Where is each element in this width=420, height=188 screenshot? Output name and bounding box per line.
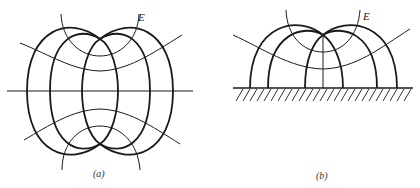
- ground-hatching: [236, 89, 411, 101]
- equipotential-top-small: [61, 14, 139, 56]
- field-line-outer-left-b: [250, 25, 323, 88]
- figure-a: E (a): [7, 11, 193, 180]
- field-line-inner-right-b: [323, 35, 343, 88]
- diagram-canvas: E (a): [0, 0, 420, 188]
- field-label-b: E: [362, 10, 370, 22]
- field-line-outer-right-b: [323, 25, 397, 88]
- field-label-a: E: [137, 11, 145, 23]
- figure-b: E (b): [233, 10, 413, 182]
- field-line-inner-left-b: [305, 35, 323, 88]
- equipotential-bottom-small: [62, 126, 140, 170]
- caption-a: (a): [93, 168, 105, 180]
- caption-b: (b): [316, 170, 328, 182]
- field-line-middle-left-b: [268, 31, 323, 88]
